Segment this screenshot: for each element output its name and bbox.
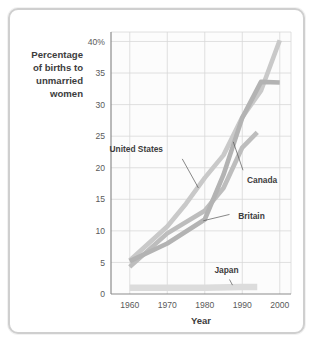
annotation-japan: Japan [214,265,238,275]
x-tick-label: 1980 [195,300,214,310]
annotation-britain: Britain [238,211,265,221]
x-axis-tick-labels: 19601970198019902000 [120,300,289,310]
y-tick-label: 30 [95,100,105,110]
y-tick-label: 20 [95,163,105,173]
x-tick-label: 2000 [270,300,289,310]
y-axis-title-line: unmarried [36,75,83,86]
x-tick-label: 1990 [233,300,252,310]
y-axis-title-line: women [49,88,83,99]
y-tick-label: 35 [95,68,105,78]
x-axis-title: Year [191,315,211,326]
y-tick-label: 5 [100,258,105,268]
y-axis-title-line: Percentage [31,49,83,60]
annotation-united-states: United States [109,144,163,154]
series-line-japan [130,287,258,288]
x-tick-label: 1960 [120,300,139,310]
y-tick-label: 0 [100,289,105,299]
line-chart: 0510152025303540% 19601970198019902000 U… [10,10,307,336]
y-tick-label: 15 [95,194,105,204]
y-tick-label: 25 [95,131,105,141]
y-axis-title-line: of births to [33,62,83,73]
annotation-canada: Canada [247,175,278,185]
chart-area: 0510152025303540% 19601970198019902000 U… [10,10,303,332]
x-axis-title-text: Year [191,315,211,326]
y-axis-tick-labels: 0510152025303540% [88,37,106,300]
y-tick-label: 40% [88,37,106,47]
figure-frame: 0510152025303540% 19601970198019902000 U… [8,8,305,334]
x-tick-label: 1970 [158,300,177,310]
y-tick-label: 10 [95,226,105,236]
y-axis-title: Percentageof births tounmarriedwomen [31,49,83,99]
